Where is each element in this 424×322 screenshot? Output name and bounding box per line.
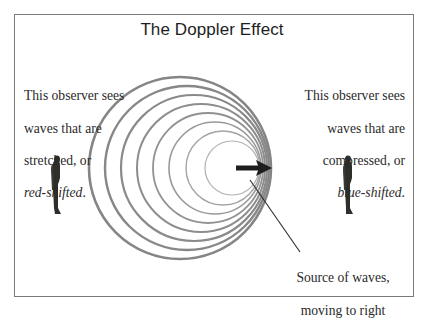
caption-line: blue-shifted. xyxy=(278,185,405,201)
caption-line: compressed, or xyxy=(278,153,405,169)
red-shifted-term: red-shifted xyxy=(24,185,82,200)
caption-line: This observer sees xyxy=(24,88,124,104)
caption-line: red-shifted. xyxy=(24,185,124,201)
blue-shift-caption: This observer sees waves that are compre… xyxy=(278,72,405,218)
caption-line: waves that are xyxy=(24,121,124,137)
caption-line: moving to right xyxy=(278,303,408,319)
caption-line: waves that are xyxy=(278,121,405,137)
caption-line: stretched, or xyxy=(24,153,124,169)
blue-shifted-term: blue-shifted xyxy=(337,185,401,200)
source-caption: Source of waves, moving to right xyxy=(278,254,408,322)
caption-line: Source of waves, xyxy=(278,270,408,286)
red-shift-caption: This observer sees waves that are stretc… xyxy=(24,72,124,218)
caption-punctuation: . xyxy=(402,185,405,200)
caption-line: This observer sees xyxy=(278,88,405,104)
caption-punctuation: . xyxy=(82,185,85,200)
